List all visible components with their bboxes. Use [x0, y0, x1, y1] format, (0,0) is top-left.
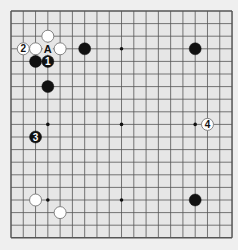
white-stone: 4 — [201, 118, 213, 130]
stone-disc — [54, 43, 66, 55]
stone-disc — [30, 194, 42, 206]
white-stone — [30, 194, 42, 206]
star-point — [193, 123, 197, 127]
black-stone — [30, 55, 42, 67]
stone-disc — [189, 43, 201, 55]
white-stone: 2 — [17, 43, 29, 55]
stone-disc — [189, 194, 201, 206]
stone-disc — [42, 30, 54, 42]
black-stone: 3 — [30, 131, 42, 143]
marker-label: A — [44, 43, 52, 55]
black-stone — [189, 194, 201, 206]
star-point — [46, 198, 50, 202]
black-stone — [189, 43, 201, 55]
stone-disc — [79, 43, 91, 55]
black-stone — [79, 43, 91, 55]
star-point — [120, 198, 124, 202]
move-number: 1 — [45, 56, 51, 67]
black-stone: 1 — [42, 55, 54, 67]
white-stone — [42, 30, 54, 42]
stone-disc — [30, 43, 42, 55]
move-number: 4 — [205, 119, 211, 130]
move-number: 3 — [33, 132, 39, 143]
move-number: 2 — [20, 43, 26, 54]
black-stone — [42, 81, 54, 93]
white-stone — [54, 43, 66, 55]
white-stone — [54, 207, 66, 219]
stone-disc — [42, 81, 54, 93]
star-point — [120, 123, 124, 127]
star-point — [120, 47, 124, 51]
markers: A — [43, 43, 53, 55]
stone-disc — [30, 55, 42, 67]
stone-disc — [54, 207, 66, 219]
white-stone — [30, 43, 42, 55]
go-board: A 2134 — [0, 0, 238, 250]
star-point — [46, 123, 50, 127]
